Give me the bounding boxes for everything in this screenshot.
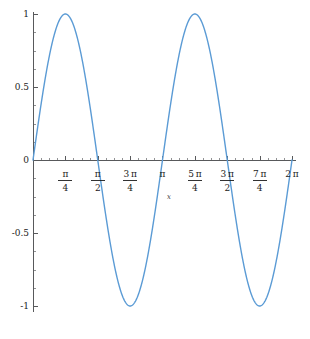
fraction-numerator: π	[62, 169, 68, 179]
x-tick-label: 7 π4	[253, 169, 267, 193]
fraction-numerator: π	[95, 169, 101, 179]
x-tick-label: 3 π4	[123, 169, 137, 193]
x-axis-label: x	[167, 193, 171, 201]
fraction-numerator: 3 π	[221, 169, 235, 179]
y-tick-text: 0	[23, 155, 29, 165]
x-tick-label: 2 π	[285, 169, 299, 179]
y-tick-text: 0.5	[15, 82, 30, 92]
fraction-denominator: 4	[127, 183, 133, 193]
fraction-numerator: 7 π	[253, 169, 267, 179]
fraction-denominator: 4	[63, 183, 69, 193]
fraction-numerator: 3 π	[123, 169, 137, 179]
fraction-numerator: 5 π	[188, 169, 202, 179]
x-tick-label: π4	[58, 169, 72, 193]
sine-curve	[33, 14, 292, 306]
x-tick-label: π	[160, 169, 166, 179]
sine-plot-svg: π4π23 π4π5 π43 π27 π42 π 10.50-0.5-1 x	[0, 0, 310, 339]
y-tick-text: -0.5	[12, 228, 30, 238]
y-tick-text: 1	[23, 9, 29, 19]
x-tick-text: π	[160, 169, 166, 179]
major-ticks-x	[66, 156, 293, 161]
fraction-denominator: 4	[257, 183, 263, 193]
fraction-denominator: 2	[95, 183, 101, 193]
x-tick-labels: π4π23 π4π5 π43 π27 π42 π	[58, 169, 298, 193]
axis-annotations: x	[167, 193, 171, 201]
x-tick-label: π2	[91, 169, 105, 193]
plot-canvas: π4π23 π4π5 π43 π27 π42 π 10.50-0.5-1 x	[0, 0, 310, 339]
x-tick-label: 5 π4	[188, 169, 202, 193]
y-tick-labels: 10.50-0.5-1	[12, 9, 30, 311]
y-tick-text: -1	[20, 301, 29, 311]
fraction-denominator: 4	[192, 183, 198, 193]
x-tick-text: 2 π	[285, 169, 299, 179]
fraction-denominator: 2	[224, 183, 230, 193]
x-tick-label: 3 π2	[220, 169, 234, 193]
